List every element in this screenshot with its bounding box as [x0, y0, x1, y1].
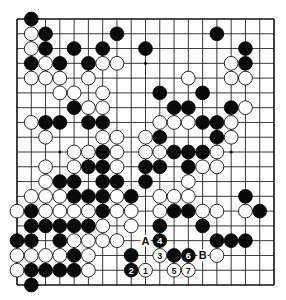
white-stone [53, 204, 67, 218]
black-stone [24, 204, 38, 218]
black-stone [53, 263, 67, 277]
white-stone [39, 189, 53, 203]
white-stone [96, 234, 110, 248]
black-stone [239, 42, 253, 56]
white-stone [96, 86, 110, 100]
white-stone [81, 263, 95, 277]
white-stone [196, 204, 210, 218]
black-stone [39, 219, 53, 233]
go-board: 1234567 AB [0, 0, 286, 300]
white-stone [224, 130, 238, 144]
move-number: 4 [157, 236, 162, 246]
white-stone [10, 204, 24, 218]
black-stone [196, 86, 210, 100]
black-stone [110, 175, 124, 189]
white-stone [153, 204, 167, 218]
black-stone [210, 116, 224, 130]
black-stone [24, 263, 38, 277]
white-stone [210, 204, 224, 218]
white-stone [110, 189, 124, 203]
numbered-move-7: 7 [181, 263, 195, 277]
black-stone [253, 204, 267, 218]
black-stone [67, 249, 81, 263]
black-stone [67, 42, 81, 56]
white-stone [67, 145, 81, 159]
white-stone [39, 130, 53, 144]
black-stone [96, 189, 110, 203]
move-number: 7 [186, 266, 191, 276]
white-stone [196, 160, 210, 174]
numbered-move-5: 5 [167, 263, 181, 277]
white-stone [124, 204, 138, 218]
numbered-move-1: 1 [139, 263, 153, 277]
white-stone [153, 145, 167, 159]
white-stone [10, 263, 24, 277]
white-stone [67, 204, 81, 218]
black-stone [181, 145, 195, 159]
white-stone [96, 56, 110, 70]
move-number: 5 [172, 266, 177, 276]
white-stone [39, 249, 53, 263]
white-stone [10, 249, 24, 263]
black-stone [67, 189, 81, 203]
white-stone [96, 101, 110, 115]
black-stone [96, 204, 110, 218]
white-stone [53, 86, 67, 100]
black-stone [124, 249, 138, 263]
black-stone [67, 219, 81, 233]
black-stone [81, 116, 95, 130]
black-stone [139, 160, 153, 174]
black-stone [53, 234, 67, 248]
white-stone [39, 160, 53, 174]
white-stone [24, 42, 38, 56]
black-stone [81, 189, 95, 203]
black-stone [239, 56, 253, 70]
white-stone [67, 234, 81, 248]
black-stone [224, 234, 238, 248]
black-stone [39, 263, 53, 277]
white-stone [81, 101, 95, 115]
white-stone [81, 204, 95, 218]
star-point [144, 62, 147, 65]
black-stone [96, 175, 110, 189]
white-stone [153, 189, 167, 203]
point-label-b: B [199, 249, 207, 261]
white-stone [210, 249, 224, 263]
black-stone [39, 116, 53, 130]
black-stone [181, 204, 195, 218]
black-stone [81, 56, 95, 70]
numbered-move-2: 2 [124, 263, 138, 277]
black-stone [24, 219, 38, 233]
white-stone [110, 234, 124, 248]
white-stone [24, 189, 38, 203]
white-stone [39, 56, 53, 70]
white-stone [24, 27, 38, 41]
black-stone [24, 278, 38, 292]
white-stone [53, 71, 67, 85]
black-stone [196, 116, 210, 130]
black-stone [81, 160, 95, 174]
black-stone [67, 101, 81, 115]
black-stone [53, 219, 67, 233]
black-stone [239, 189, 253, 203]
black-stone [96, 160, 110, 174]
white-stone [224, 71, 238, 85]
white-stone [81, 71, 95, 85]
black-stone [167, 249, 181, 263]
move-number: 3 [157, 251, 162, 261]
black-stone [153, 86, 167, 100]
black-stone [67, 175, 81, 189]
white-stone [110, 204, 124, 218]
white-stone [224, 56, 238, 70]
black-stone [96, 42, 110, 56]
white-stone [39, 204, 53, 218]
white-stone [110, 130, 124, 144]
white-stone [224, 116, 238, 130]
black-stone [196, 219, 210, 233]
white-stone [110, 56, 124, 70]
black-stone [181, 101, 195, 115]
white-stone [153, 116, 167, 130]
black-stone [139, 175, 153, 189]
black-stone [224, 101, 238, 115]
numbered-move-3: 3 [153, 249, 167, 263]
